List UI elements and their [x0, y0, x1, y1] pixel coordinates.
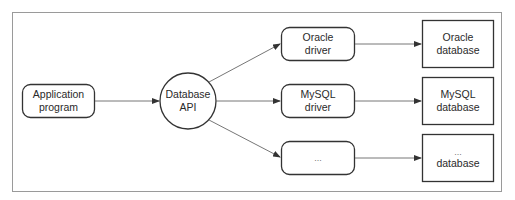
edge-api-to-other-driver [209, 120, 280, 157]
label-line: driver [305, 44, 331, 57]
oracle-database-label: Oracle database [422, 20, 494, 68]
application-program-label: Application program [22, 84, 95, 118]
label-line: ... [314, 153, 322, 163]
label-line: MySQL [440, 88, 475, 101]
label-line: Database [166, 88, 211, 101]
label-line: API [180, 101, 197, 114]
mysql-database-label: MySQL database [422, 77, 494, 125]
other-database-label: ... database [422, 134, 494, 182]
label-line: database [436, 44, 479, 57]
label-line: database [436, 157, 479, 170]
edge-api-to-oracle-driver [209, 44, 280, 82]
database-api-label: Database API [160, 84, 216, 118]
label-line: Oracle [443, 31, 474, 44]
label-line: ... [454, 147, 462, 157]
label-line: database [436, 101, 479, 114]
label-line: driver [305, 101, 331, 114]
label-line: Application [33, 88, 84, 101]
other-driver-label: ... [281, 141, 355, 175]
label-line: MySQL [300, 88, 335, 101]
label-line: program [39, 101, 78, 114]
mysql-driver-label: MySQL driver [281, 84, 355, 118]
label-line: Oracle [303, 31, 334, 44]
oracle-driver-label: Oracle driver [281, 27, 355, 61]
